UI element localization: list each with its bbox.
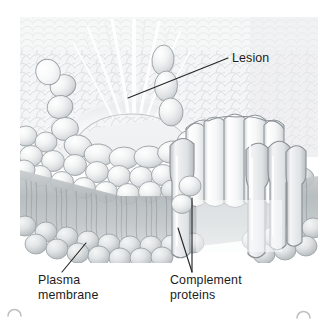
svg-text:Complement: Complement (170, 273, 242, 287)
illustration-svg: Lesion Plasma membrane Complement protei… (0, 0, 327, 325)
label-lesion: Lesion (232, 51, 269, 65)
figure-container: Lesion Plasma membrane Complement protei… (0, 0, 327, 325)
svg-text:Plasma: Plasma (38, 273, 80, 287)
svg-text:proteins: proteins (170, 288, 215, 302)
svg-text:membrane: membrane (38, 288, 98, 302)
illustration-body (13, 17, 324, 268)
